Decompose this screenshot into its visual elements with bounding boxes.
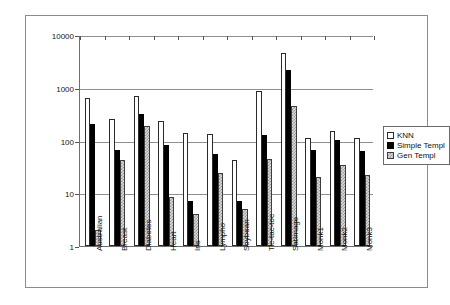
y-axis-tick-label: 10: [32, 190, 74, 199]
y-axis-tick-mark: [75, 142, 79, 143]
y-axis-tick-label: 10000: [32, 32, 74, 41]
y-axis-tick-label: 1: [32, 243, 74, 252]
plot-area: [79, 36, 373, 247]
x-axis-category-label: Breast: [120, 228, 129, 251]
x-axis-category-label: SatImage: [291, 217, 300, 251]
x-axis-tick-mark: [129, 36, 130, 40]
x-axis-category-label: Monk3: [365, 227, 374, 251]
y-axis-tick-label: 1000: [32, 84, 74, 93]
checkered-square-swatch-icon: [387, 152, 394, 159]
x-axis-tick-mark: [252, 36, 253, 40]
x-axis-tick-mark: [203, 36, 204, 40]
x-axis-tick-mark: [154, 36, 155, 40]
x-axis-tick-mark: [105, 36, 106, 40]
legend-label: Gen Templ: [397, 151, 436, 160]
x-axis-tick-mark: [276, 36, 277, 40]
chart-frame: 110100100010000 AustralianBreastDiabetes…: [25, 15, 428, 288]
gridline: [80, 89, 373, 90]
legend-label: Simple Templ: [397, 141, 445, 150]
white-square-swatch-icon: [387, 132, 394, 139]
x-axis-category-label: Monk1: [316, 227, 325, 251]
black-square-swatch-icon: [387, 142, 394, 149]
x-axis-tick-mark: [350, 36, 351, 40]
x-axis-category-label: Soybean: [242, 219, 251, 251]
x-axis-tick-mark: [325, 36, 326, 40]
x-axis-tick-mark: [80, 36, 81, 40]
y-axis-tick-mark: [75, 89, 79, 90]
x-axis-tick-mark: [227, 36, 228, 40]
legend-item-gen-templ: Gen Templ: [387, 151, 445, 160]
legend-label: KNN: [397, 131, 414, 140]
x-axis-tick-mark: [374, 36, 375, 40]
x-axis-category-label: Diabetes: [144, 219, 153, 251]
x-axis-category-label: Australian: [95, 215, 104, 251]
x-axis-category-label: Heart: [169, 231, 178, 251]
x-axis-tick-mark: [301, 36, 302, 40]
x-axis-category-label: Monk2: [340, 227, 349, 251]
chart-legend: KNN Simple Templ Gen Templ: [383, 126, 450, 165]
legend-item-simple-templ: Simple Templ: [387, 141, 445, 150]
y-axis-tick-mark: [75, 36, 79, 37]
x-axis-category-label: Lympho: [218, 223, 227, 251]
x-axis-category-label: Iris: [193, 240, 202, 251]
legend-item-knn: KNN: [387, 131, 445, 140]
y-axis-tick-label: 100: [32, 137, 74, 146]
x-axis-tick-mark: [178, 36, 179, 40]
y-axis-tick-mark: [75, 247, 79, 248]
x-axis-category-label: Tic-tac-toe: [267, 214, 276, 252]
y-axis-tick-mark: [75, 194, 79, 195]
